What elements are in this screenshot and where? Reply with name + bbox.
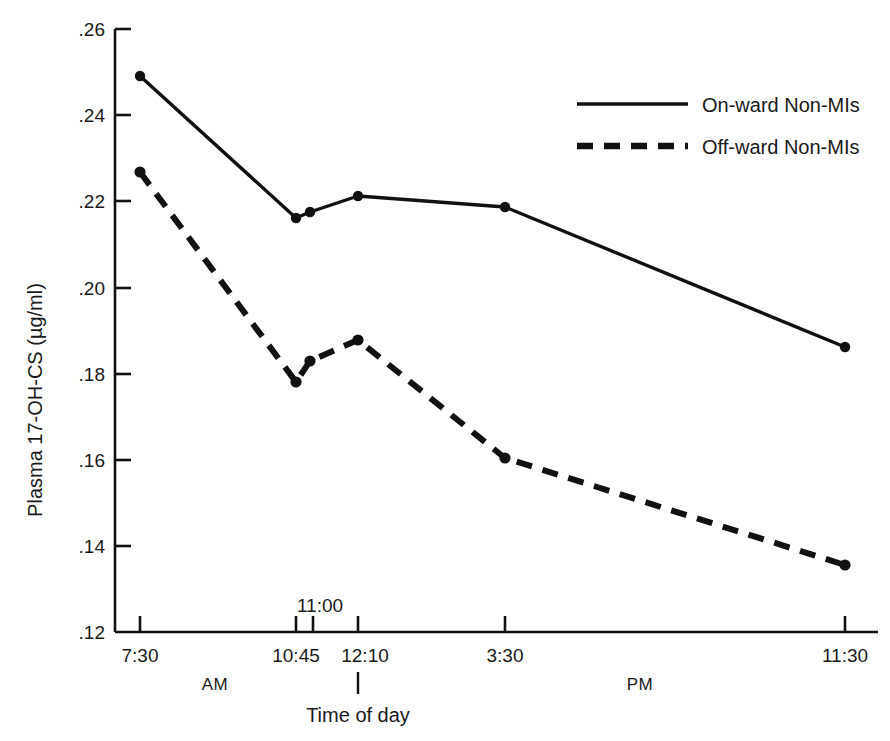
x-tick-label-1210: 12:10: [341, 645, 389, 666]
period-label-pm: PM: [627, 675, 654, 694]
y-axis-title: Plasma 17-OH-CS (µg/ml): [24, 283, 46, 517]
x-annotation-1100: 11:00: [297, 595, 343, 616]
series-line-on-ward: [140, 76, 845, 347]
y-tick-label-22: .22: [79, 191, 105, 212]
data-point-off-ward-1100: [304, 355, 315, 366]
x-tick-label-0330: 3:30: [487, 645, 524, 666]
y-axis-tick-labels: .26 .24 .22 .20 .18 .16 .14 .12: [79, 19, 106, 643]
series-off-ward-non-mis: [134, 166, 850, 570]
series-line-off-ward: [140, 172, 845, 565]
data-point-off-ward-0330: [499, 452, 510, 463]
data-point-on-ward-1100: [305, 207, 315, 217]
x-axis-ticks: [140, 616, 845, 632]
x-axis-title: Time of day: [306, 704, 410, 726]
y-tick-label-18: .18: [79, 364, 105, 385]
legend-item-off-ward: Off-ward Non-MIs: [577, 136, 859, 158]
x-tick-label-0730: 7:30: [122, 645, 159, 666]
axis-lines: [115, 29, 878, 632]
y-tick-label-26: .26: [79, 19, 105, 40]
data-point-on-ward-0330: [500, 202, 510, 212]
period-label-am: AM: [202, 675, 229, 694]
data-point-on-ward-0730: [135, 71, 145, 81]
data-point-off-ward-1045: [290, 376, 301, 387]
y-tick-label-24: .24: [79, 105, 106, 126]
y-tick-label-16: .16: [79, 450, 105, 471]
data-point-off-ward-0730: [134, 166, 145, 177]
x-axis-tick-labels: 7:30 10:45 12:10 3:30 11:30: [122, 645, 869, 666]
chart-page: .26 .24 .22 .20 .18 .16 .14 .12 Plasma 1…: [0, 0, 890, 741]
y-tick-label-20: .20: [79, 278, 105, 299]
y-axis-ticks: [115, 29, 131, 546]
data-point-on-ward-1130: [840, 342, 850, 352]
legend-label-off-ward: Off-ward Non-MIs: [702, 136, 859, 158]
data-point-off-ward-1210: [352, 334, 363, 345]
data-point-off-ward-1130: [839, 559, 850, 570]
legend: On-ward Non-MIs Off-ward Non-MIs: [577, 94, 860, 158]
x-tick-label-1130: 11:30: [822, 645, 868, 666]
y-tick-label-14: .14: [79, 536, 106, 557]
line-chart: .26 .24 .22 .20 .18 .16 .14 .12 Plasma 1…: [0, 0, 890, 741]
data-point-on-ward-1210: [353, 191, 363, 201]
data-point-on-ward-1045: [291, 213, 301, 223]
legend-label-on-ward: On-ward Non-MIs: [702, 94, 860, 116]
legend-item-on-ward: On-ward Non-MIs: [577, 94, 860, 116]
x-tick-label-1045: 10:45: [272, 645, 320, 666]
y-tick-label-12: .12: [79, 622, 105, 643]
